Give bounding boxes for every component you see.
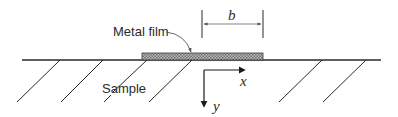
sample-hatching xyxy=(17,60,366,102)
metal-film-label: Metal film xyxy=(113,24,169,39)
sample-label: Sample xyxy=(102,81,146,96)
coordinate-axes xyxy=(204,70,240,102)
x-axis-label: x xyxy=(239,73,247,89)
y-axis-label: y xyxy=(211,98,220,114)
metal-film-leader-arrow xyxy=(166,32,191,52)
metal-film-diagram: Metal film b x y Sample xyxy=(0,0,398,117)
dimension-b-label: b xyxy=(228,7,236,23)
metal-film xyxy=(142,53,263,60)
